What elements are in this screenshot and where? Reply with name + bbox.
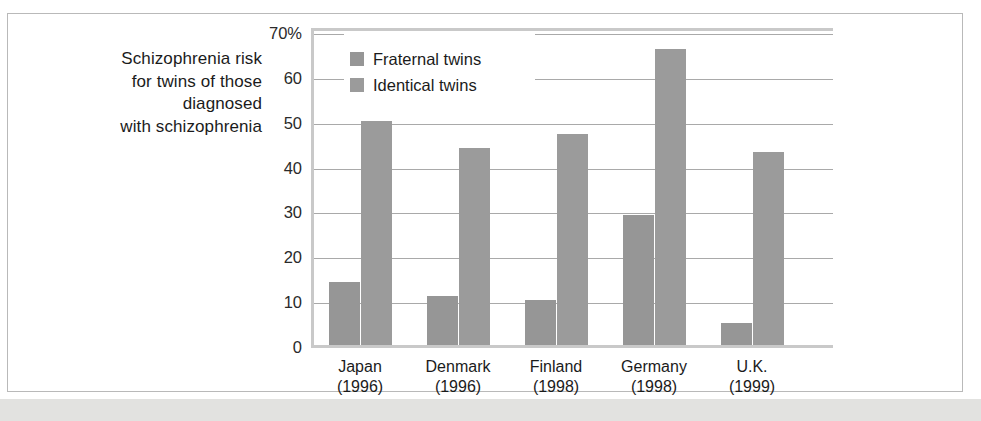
y-tick-label-30: 30 [242, 204, 302, 221]
bar-denmark-identical [459, 148, 490, 345]
x-tick-country: Denmark [403, 357, 513, 377]
legend-item-fraternal: Fraternal twins [350, 46, 540, 72]
legend-label-identical: Identical twins [373, 76, 477, 95]
page-bottom-band [0, 399, 981, 421]
gridline-70 [314, 34, 344, 35]
x-tick-japan: Japan(1996) [305, 357, 415, 396]
y-axis: 010203040506070% [240, 31, 302, 348]
legend-item-identical: Identical twins [350, 72, 540, 98]
x-tick-country: Japan [305, 357, 415, 377]
legend-swatch-fraternal [350, 52, 364, 66]
bar-japan-identical [361, 121, 392, 345]
y-tick-label-40: 40 [242, 160, 302, 177]
bar-germany-identical [655, 49, 686, 345]
x-tick-germany: Germany(1998) [599, 357, 709, 396]
bar-finland-identical [557, 134, 588, 345]
caption-line-3: diagnosed [30, 93, 262, 116]
bar-japan-fraternal [329, 282, 360, 345]
bar-finland-fraternal [525, 300, 556, 345]
gridline-70-right [535, 34, 833, 35]
chart-legend: Fraternal twins Identical twins [350, 46, 540, 98]
x-tick-country: Germany [599, 357, 709, 377]
x-tick-country: U.K. [697, 357, 807, 377]
x-tick-year: (1999) [697, 377, 807, 397]
caption-line-4: with schizophrenia [30, 116, 262, 139]
x-tick-denmark: Denmark(1996) [403, 357, 513, 396]
caption-line-2: for twins of those [30, 71, 262, 94]
chart-caption: Schizophrenia risk for twins of those di… [30, 48, 262, 138]
bar-germany-fraternal [623, 215, 654, 345]
figure-page: Schizophrenia risk for twins of those di… [0, 0, 981, 421]
x-tick-finland: Finland(1998) [501, 357, 611, 396]
y-tick-label-0: 0 [242, 339, 302, 356]
bar-uk-identical [753, 152, 784, 345]
x-tick-country: Finland [501, 357, 611, 377]
y-tick-label-70: 70% [242, 25, 302, 42]
y-tick-label-10: 10 [242, 294, 302, 311]
axis-baseline [314, 345, 833, 348]
y-tick-label-20: 20 [242, 249, 302, 266]
bar-denmark-fraternal [427, 296, 458, 345]
gridline-60 [314, 79, 344, 80]
x-tick-year: (1998) [501, 377, 611, 397]
x-tick-uk: U.K.(1999) [697, 357, 807, 396]
x-tick-year: (1996) [403, 377, 513, 397]
y-tick-label-60: 60 [242, 70, 302, 87]
x-tick-year: (1996) [305, 377, 415, 397]
bar-uk-fraternal [721, 323, 752, 345]
x-tick-year: (1998) [599, 377, 709, 397]
caption-line-1: Schizophrenia risk [30, 48, 262, 71]
legend-label-fraternal: Fraternal twins [373, 50, 481, 69]
y-tick-label-50: 50 [242, 115, 302, 132]
legend-swatch-identical [350, 78, 364, 92]
